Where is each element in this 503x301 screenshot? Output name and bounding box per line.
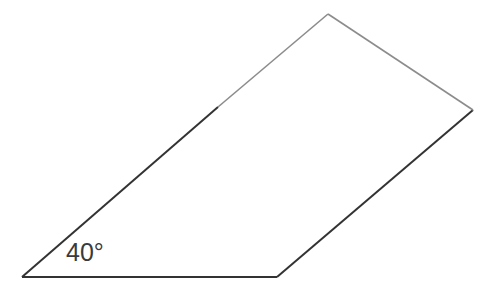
right-upper-edge	[328, 14, 473, 110]
right-lower-edge	[277, 110, 473, 277]
angle-label: 40°	[66, 240, 104, 265]
left-upper-edge	[218, 14, 328, 107]
left-lower-edge	[22, 107, 218, 277]
